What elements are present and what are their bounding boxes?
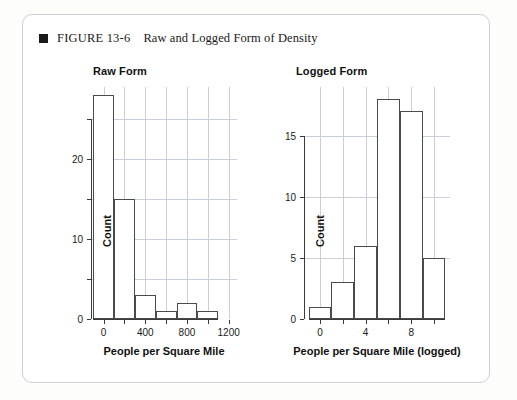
y-axis-tick: [87, 319, 91, 320]
x-axis-tick: [145, 320, 146, 324]
panel-title-logged: Logged Form: [296, 65, 367, 77]
y-axis-tick-label: 10: [57, 234, 83, 245]
x-axis-tick: [187, 320, 188, 324]
x-axis-tick-label: 0: [317, 327, 323, 338]
y-axis-tick: [87, 159, 91, 160]
y-axis-tick-label: 5: [270, 252, 296, 263]
histogram-bar: [423, 258, 446, 319]
x-axis-tick: [104, 320, 105, 324]
y-axis-tick: [87, 239, 91, 240]
histogram-bar: [197, 311, 218, 319]
x-axis-line: [309, 319, 446, 320]
histogram-bar: [354, 246, 377, 319]
histogram-bar: [177, 303, 198, 319]
y-axis-tick-label: 0: [57, 314, 83, 325]
y-axis-tick: [300, 197, 304, 198]
y-axis-tick: [87, 199, 91, 200]
gridline-vertical: [187, 87, 188, 319]
x-axis-title: People per Square Mile: [103, 345, 224, 357]
x-axis-tick-label: 0: [101, 327, 107, 338]
y-axis-tick-label: 20: [57, 154, 83, 165]
panel-title-raw: Raw Form: [93, 65, 147, 77]
figure-number-label: FIGURE 13-6: [57, 31, 130, 46]
y-axis-tick: [300, 319, 304, 320]
y-axis-title: Count: [101, 201, 113, 261]
chart-panel-raw-form: Raw Form 0400800120001020 People per Squ…: [35, 61, 249, 367]
gridline-vertical: [229, 87, 230, 319]
y-axis-tick-label: 10: [270, 191, 296, 202]
figure-caption: FIGURE 13-6 Raw and Logged Form of Densi…: [39, 31, 318, 46]
histogram-bar: [309, 307, 332, 319]
x-axis-line: [93, 319, 218, 320]
x-axis-tick: [166, 320, 167, 324]
x-axis-tick: [229, 320, 230, 324]
x-axis-title: People per Square Mile (logged): [293, 345, 460, 357]
y-axis-title: Count: [314, 201, 326, 261]
x-axis-tick: [388, 320, 389, 324]
histogram-bar: [377, 99, 400, 319]
histogram-bar: [114, 199, 135, 319]
histogram-bar: [156, 311, 177, 319]
x-axis-tick-label: 8: [408, 327, 414, 338]
gridline-vertical: [145, 87, 146, 319]
x-axis-tick: [343, 320, 344, 324]
x-axis-tick: [411, 320, 412, 324]
y-axis-line: [91, 119, 92, 319]
x-axis-tick-label: 400: [137, 327, 154, 338]
y-axis-tick-label: 15: [270, 130, 296, 141]
y-axis-tick-label: 0: [270, 314, 296, 325]
x-axis-tick: [366, 320, 367, 324]
gridline-vertical: [166, 87, 167, 319]
x-axis-tick-label: 1200: [218, 327, 240, 338]
y-axis-tick: [87, 279, 91, 280]
filled-square-icon: [39, 34, 48, 43]
histogram-bar: [135, 295, 156, 319]
histogram-bar: [331, 282, 354, 319]
y-axis-tick: [300, 136, 304, 137]
y-axis-tick: [300, 258, 304, 259]
figure-title: Raw and Logged Form of Density: [143, 31, 317, 46]
x-axis-tick-label: 4: [363, 327, 369, 338]
x-axis-tick: [208, 320, 209, 324]
y-axis-tick: [87, 119, 91, 120]
x-axis-tick: [434, 320, 435, 324]
figure-card: FIGURE 13-6 Raw and Logged Form of Densi…: [22, 14, 490, 383]
y-axis-line: [304, 136, 305, 319]
x-axis-tick: [320, 320, 321, 324]
x-axis-tick-label: 800: [179, 327, 196, 338]
gridline-vertical: [208, 87, 209, 319]
x-axis-tick: [124, 320, 125, 324]
chart-panel-logged-form: Logged Form 048051015 People per Square …: [248, 61, 462, 367]
histogram-bar: [400, 111, 423, 319]
